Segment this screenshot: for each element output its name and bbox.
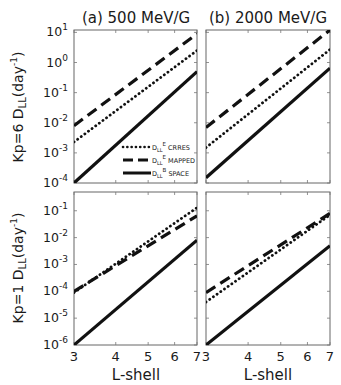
ytick-label: 10-4 — [43, 281, 68, 298]
xtick-label: 5 — [144, 349, 152, 364]
panel-d-kp1-series-solid — [206, 246, 330, 345]
panel-c-kp1-frame — [74, 192, 197, 345]
panel-d-kp1-series-dashed — [206, 213, 330, 292]
xtick-label: 4 — [112, 349, 120, 364]
xlabel-left: L-shell — [112, 366, 160, 384]
tick-labels: 10-410-310-210-110010110-610-510-410-310… — [43, 22, 334, 364]
ytick-label: 10-1 — [43, 83, 68, 100]
figure: 10-410-310-210-110010110-610-510-410-310… — [0, 0, 341, 385]
panel-b-kp6-series-solid — [206, 68, 330, 178]
data-lines — [74, 30, 330, 345]
ytick-label: 10-3 — [43, 254, 68, 271]
xtick-label: 3 — [202, 349, 210, 364]
ytick-label: 10-4 — [43, 173, 68, 190]
ytick-label: 10-1 — [43, 201, 68, 218]
xtick-label: 5 — [277, 349, 285, 364]
panel-c-kp1-series-dashed — [74, 216, 197, 292]
ytick-label: 10-3 — [43, 143, 68, 160]
ytick-label: 10-6 — [43, 335, 68, 352]
xtick-label: 4 — [244, 349, 252, 364]
ytick-label: 10-2 — [43, 113, 68, 130]
legend-label-crres: DLLECRRES — [152, 141, 190, 153]
ytick-label: 100 — [46, 53, 68, 70]
panel-title-b: (b) 2000 MeV/G — [209, 9, 327, 27]
panel-b-kp6-series-dotted — [206, 50, 330, 148]
panel-title-a: (a) 500 MeV/G — [82, 9, 190, 27]
panel-a-kp6-series-dashed — [74, 34, 197, 126]
legend: DLLECRRES DLLEMAPPED DLLBSPACE — [123, 141, 195, 179]
legend-label-mapped: DLLEMAPPED — [152, 154, 195, 166]
ylabel-kp6: Kp=6 DLL(day-1) — [9, 52, 28, 163]
legend-label-space: DLLBSPACE — [152, 167, 189, 179]
panel-d-kp1-frame — [206, 192, 330, 345]
xtick-label: 3 — [70, 349, 78, 364]
panel-d-kp1-series-dotted — [206, 215, 330, 302]
ytick-label: 101 — [46, 22, 68, 39]
axes-frames — [74, 30, 330, 345]
xtick-label: 6 — [303, 349, 311, 364]
xtick-label: 6 — [170, 349, 178, 364]
ytick-label: 10-5 — [43, 308, 68, 325]
ytick-label: 10-2 — [43, 228, 68, 245]
xtick-label: 7 — [326, 349, 334, 364]
xlabel-right: L-shell — [244, 366, 292, 384]
panel-c-kp1-series-solid — [74, 240, 197, 345]
panel-b-kp6-series-dashed — [206, 30, 330, 127]
xtick-label: 7 — [193, 349, 201, 364]
ylabel-kp1: Kp=1 DLL(day-1) — [9, 213, 28, 324]
